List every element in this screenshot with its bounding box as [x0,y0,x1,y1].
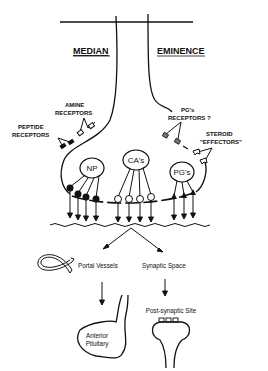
peptide-receptor-icon [67,139,74,146]
cas-projections [118,168,151,197]
pgs-pointer [166,122,181,139]
branch-arrows [103,228,163,252]
anterior-pituitary-label-2: Pituitary [86,340,110,348]
amine-receptors-label-1: AMINE [65,102,84,108]
steroid-label-2: "EFFECTORS" [200,139,242,145]
pgs-receptors-label-2: RECEPTORS ? [168,115,211,121]
synaptic-space-label: Synaptic Space [142,262,186,270]
pgs-label: PG's [173,168,190,177]
pgs-receptors-label-1: PG's [181,107,195,113]
peptide-receptors-label-1: PEPTIDE [18,124,44,130]
np-label: NP [86,164,97,173]
nerve-terminal-outline-right-lower [196,162,206,192]
cas-label: CA's [128,156,145,165]
post-synaptic-neuron-shape [153,322,190,368]
post-synaptic-site-label: Post-synaptic Site [146,307,197,315]
peptide-receptors-label-2: RECEPTORS [12,132,49,138]
peptide-receptor-icon [59,143,66,150]
cas-vesicles-open [115,194,155,203]
anterior-pituitary-label-1: Anterior [86,332,108,339]
membrane-curve [72,192,196,203]
steroid-label-1: STEROID [206,131,233,137]
pgs-receptor-icon [174,138,180,144]
steroid-effector-icon [200,158,207,164]
amine-receptors-label-2: RECEPTORS [55,110,92,116]
title-median: MEDIAN [73,46,109,56]
steroid-effector-icon [193,149,200,155]
portal-vessel-icon [38,255,74,273]
target-arrows [100,279,168,305]
basement-membrane-wave [50,224,210,227]
median-eminence-diagram: MEDIAN EMINENCE AMINE RECEPTORS PEPTIDE … [0,0,268,371]
nerve-terminal-outline-right [148,14,172,112]
title-eminence: EMINENCE [157,46,205,56]
amine-receptor-icon [77,130,83,136]
anterior-pituitary-shape [78,295,128,358]
portal-vessels-label: Portal Vessels [78,262,118,269]
